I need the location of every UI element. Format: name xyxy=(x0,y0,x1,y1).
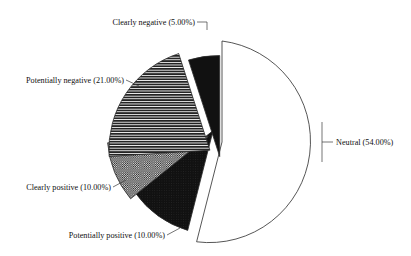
pie-chart-figure: Neutral (54.00%) Clearly negative (5.00%… xyxy=(0,0,411,256)
pie-label-clearly-positive: Clearly positive (10.00%) xyxy=(26,183,111,192)
pie-label-potentially-negative: Potentially negative (21.00%) xyxy=(26,76,124,85)
pie-label-clearly-negative: Clearly negative (5.00%) xyxy=(112,18,195,27)
pie-label-neutral: Neutral (54.00%) xyxy=(336,138,394,147)
pie-label-potentially-positive: Potentially positive (10.00%) xyxy=(69,231,165,240)
pie-chart-canvas: Neutral (54.00%) Clearly negative (5.00%… xyxy=(0,0,411,256)
